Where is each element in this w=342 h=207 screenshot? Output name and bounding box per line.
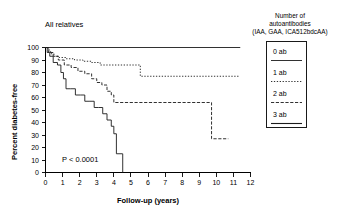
chart-canvas: All relatives Percent diabetes-free Foll… [0,0,342,207]
x-tick-label: 2 [78,179,82,186]
x-tick-label: 5 [129,179,133,186]
survival-chart-figure: All relatives Percent diabetes-free Foll… [0,0,342,207]
y-tick-label: 90 [31,57,39,64]
y-tick-label: 20 [31,144,39,151]
series-curves [46,48,241,173]
curve-2-ab [46,48,229,139]
curve-3-ab [46,48,123,173]
x-tick-label: 8 [180,179,184,186]
x-tick-label: 4 [112,179,116,186]
y-tick-label: 10 [31,157,39,164]
x-tick-label: 7 [163,179,167,186]
x-tick-label: 1 [61,179,65,186]
y-tick-label: 100 [27,44,39,51]
x-tick-label: 11 [230,179,237,186]
legend-label-3-ab[interactable]: 3 ab [273,111,287,118]
p-value-annotation: P < 0.0001 [62,155,98,164]
x-tick-label: 12 [247,179,255,186]
x-tick-label: 0 [44,179,48,186]
y-tick-label: 40 [31,119,39,126]
legend-label-2-ab[interactable]: 2 ab [273,90,287,97]
legend-title-line2: autoantibodies [269,20,311,27]
legend-title-line3: (IAA, GAA, ICA512bdcAA) [252,28,327,36]
y-tick-label: 70 [31,82,39,89]
panel-title: All relatives [45,20,84,29]
x-tick-label: 10 [212,179,220,186]
y-tick-label: 30 [31,132,39,139]
legend-label-1-ab[interactable]: 1 ab [273,69,287,76]
x-axis-title: Follow-up (years) [117,196,180,205]
y-tick-label: 60 [31,94,39,101]
x-tick-label: 9 [197,179,201,186]
y-tick-label: 50 [31,107,39,114]
y-axis-title: Percent diabetes-free [10,84,19,160]
legend-label-0-ab[interactable]: 0 ab [273,48,287,55]
x-tick-label: 3 [95,179,99,186]
x-axis-ticks: 0123456789101112 [44,173,255,187]
x-tick-label: 6 [146,179,150,186]
y-axis-ticks: 0102030405060708090100 [27,44,45,176]
legend-entries[interactable]: 0 ab1 ab2 ab3 ab [271,48,302,124]
y-tick-label: 80 [31,69,39,76]
legend-title-line1: Number of [275,12,305,19]
curve-1-ab [46,48,239,77]
y-tick-label: 0 [35,169,39,176]
